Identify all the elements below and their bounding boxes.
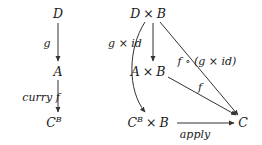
node-d: D xyxy=(52,6,63,21)
label-g: g xyxy=(43,37,50,50)
label-g-times-id: g × id xyxy=(108,37,142,50)
axb-op: × xyxy=(143,64,153,79)
commutative-diagram: D g A curry f CB D×B A×B CB×B C g × id f… xyxy=(0,0,262,145)
dxb-right: B xyxy=(156,6,166,21)
node-cb-times-b: CB×B xyxy=(127,115,168,130)
label-curry-f: curry f xyxy=(22,91,61,104)
node-a: A xyxy=(52,64,62,79)
cbxb-exponent: B xyxy=(136,115,143,124)
node-a-times-b: A×B xyxy=(130,64,166,79)
cbxb-right: B xyxy=(158,115,168,130)
label-apply: apply xyxy=(180,128,211,141)
dxb-op: × xyxy=(143,6,153,21)
label-f: f xyxy=(197,81,204,94)
right-diagram: D×B A×B CB×B C g × id f ∘ (g × id) f app… xyxy=(108,6,248,141)
node-d-times-b: D×B xyxy=(129,6,166,21)
node-c: C xyxy=(238,115,248,130)
arrow-f-comp xyxy=(160,22,238,115)
left-diagram: D g A curry f CB xyxy=(22,6,63,130)
label-f-comp: f ∘ (g × id) xyxy=(177,55,237,68)
axb-left: A xyxy=(130,64,140,79)
cb-base: C xyxy=(46,115,56,130)
cbxb-base: C xyxy=(127,115,137,130)
dxb-left: D xyxy=(129,6,140,21)
axb-right: B xyxy=(155,64,165,79)
cbxb-op: × xyxy=(146,115,156,130)
cb-exponent: B xyxy=(55,115,62,124)
node-c-exp-b: CB xyxy=(46,115,62,130)
